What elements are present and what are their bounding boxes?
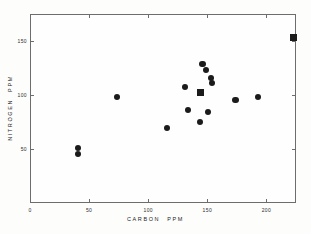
- data-point-circle: [205, 109, 211, 115]
- y-axis-tick: [30, 95, 34, 96]
- x-axis-tick-top: [266, 14, 267, 18]
- data-point-circle: [203, 67, 209, 73]
- x-axis-tick-label: 200: [262, 207, 272, 213]
- x-axis-tick-label: 0: [28, 207, 31, 213]
- x-axis-tick: [148, 199, 149, 203]
- data-point-circle: [75, 145, 81, 151]
- x-axis-tick-label: 50: [86, 207, 92, 213]
- data-point-circle: [209, 80, 215, 86]
- y-axis-tick: [30, 149, 34, 150]
- x-axis-tick: [89, 199, 90, 203]
- x-axis-label: CARBON PPM: [0, 216, 311, 222]
- data-point-circle: [199, 61, 205, 67]
- y-axis-tick-label: 150: [16, 38, 27, 44]
- data-point-circle: [114, 94, 120, 100]
- x-axis-tick: [266, 199, 267, 203]
- x-axis-tick-top: [30, 14, 31, 18]
- data-point-circle: [182, 84, 188, 90]
- data-point-square: [197, 89, 204, 96]
- y-axis-label: NITROGEN PPM: [7, 75, 13, 141]
- x-axis-tick-top: [148, 14, 149, 18]
- data-point-circle: [255, 94, 261, 100]
- data-point-circle: [185, 107, 191, 113]
- x-axis-tick: [30, 199, 31, 203]
- x-axis-tick: [207, 199, 208, 203]
- y-axis-tick: [30, 41, 34, 42]
- data-point-circle: [75, 151, 81, 157]
- data-point-circle: [232, 97, 238, 103]
- x-axis-tick-label: 150: [203, 207, 213, 213]
- y-axis-tick-label: 50: [16, 146, 27, 152]
- y-axis-tick-right: [292, 41, 296, 42]
- x-axis-tick-top: [89, 14, 90, 18]
- x-axis-tick-label: 100: [143, 207, 153, 213]
- data-points-layer: [31, 15, 295, 202]
- x-axis-tick-top: [207, 14, 208, 18]
- data-point-circle: [197, 119, 203, 125]
- data-point-circle: [164, 125, 170, 131]
- y-axis-tick-right: [292, 149, 296, 150]
- plot-frame: [30, 14, 296, 203]
- figure-canvas: 05010015020050100150 CARBON PPM NITROGEN…: [0, 0, 311, 234]
- y-axis-tick-label: 100: [16, 92, 27, 98]
- y-axis-tick-right: [292, 95, 296, 96]
